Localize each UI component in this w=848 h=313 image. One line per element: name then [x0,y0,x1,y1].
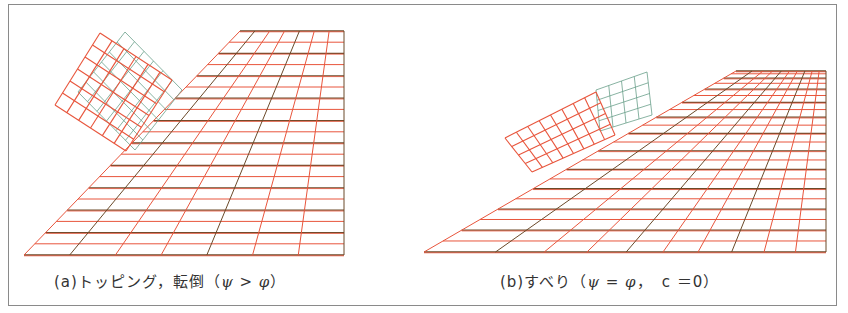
caption-a-title: トッピング，転倒 [78,273,205,291]
caption-b: (b)すべり（ψ = φ， c ＝0） [500,270,719,291]
caption-b-close: ） [703,273,719,291]
panel-a-toppling-diagram [24,31,344,256]
diagram-canvas [0,0,848,313]
caption-b-relation: = [600,273,625,291]
caption-b-phi: φ [625,273,637,291]
caption-b-label: (b) [500,273,524,291]
caption-a-psi: ψ [221,273,234,291]
panel-b-sliding-diagram [424,71,826,253]
caption-a: (a)トッピング，転倒（ψ > φ） [54,270,286,291]
caption-b-psi: ψ [587,273,600,291]
caption-b-open: （ [571,273,587,291]
caption-a-close: ） [270,273,286,291]
caption-a-relation: > [234,273,259,291]
caption-a-label: (a) [54,273,78,291]
caption-b-title: すべり [524,273,571,291]
caption-a-phi: φ [259,273,271,291]
caption-a-open: （ [205,273,221,291]
caption-b-extra: ， c ＝0 [637,273,704,291]
